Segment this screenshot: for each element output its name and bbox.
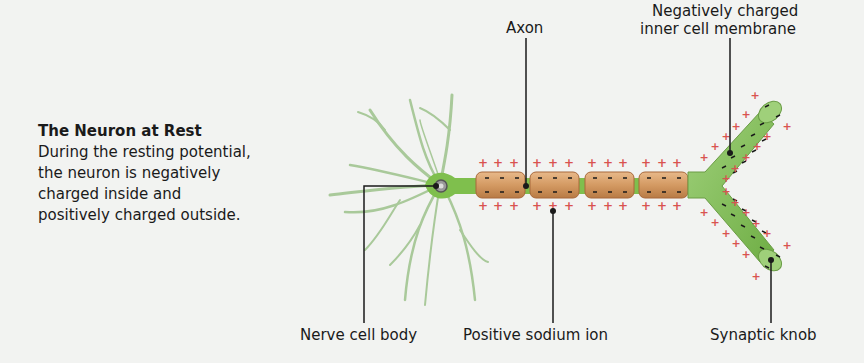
svg-text:+: +	[710, 216, 719, 229]
svg-text:+: +	[548, 156, 558, 170]
svg-text:+: +	[752, 140, 761, 153]
svg-text:+: +	[478, 199, 488, 213]
svg-text:+: +	[618, 199, 628, 213]
svg-text:+: +	[603, 199, 613, 213]
svg-text:+: +	[509, 156, 519, 170]
svg-text:+: +	[672, 156, 682, 170]
svg-text:+: +	[721, 130, 730, 143]
svg-text:+: +	[731, 237, 740, 250]
svg-text:+: +	[750, 89, 759, 102]
svg-text:+: +	[564, 199, 574, 213]
svg-text:+: +	[762, 227, 771, 240]
svg-text:+: +	[532, 199, 542, 213]
label-axon: Axon	[506, 19, 543, 38]
svg-text:+: +	[699, 151, 708, 164]
svg-text:+: +	[672, 199, 682, 213]
label-positive-sodium-ion: Positive sodium ion	[463, 326, 608, 345]
svg-text:+: +	[587, 156, 597, 170]
svg-text:+: +	[710, 140, 719, 153]
svg-text:+: +	[741, 151, 750, 164]
neuron-diagram: +++ +++ +++ +++ +++ +++ +++ +++ ++++++ +…	[0, 0, 864, 363]
svg-text:+: +	[657, 199, 667, 213]
svg-text:+: +	[509, 199, 519, 213]
svg-text:+: +	[782, 120, 791, 133]
svg-text:+: +	[587, 199, 597, 213]
svg-text:+: +	[782, 239, 791, 252]
dendrites	[330, 95, 488, 305]
svg-text:+: +	[741, 206, 750, 219]
svg-text:+: +	[641, 156, 651, 170]
svg-text:+: +	[493, 199, 503, 213]
svg-text:+: +	[751, 270, 760, 283]
svg-text:+: +	[641, 199, 651, 213]
svg-text:+: +	[564, 156, 574, 170]
svg-text:+: +	[730, 162, 739, 175]
svg-text:+: +	[478, 156, 488, 170]
label-membrane-line2: inner cell membrane	[640, 20, 796, 39]
svg-text:+: +	[721, 172, 730, 185]
svg-text:+: +	[721, 227, 730, 240]
svg-text:+: +	[532, 156, 542, 170]
svg-text:+: +	[618, 156, 628, 170]
svg-text:+: +	[730, 196, 739, 209]
svg-text:+: +	[741, 108, 750, 121]
svg-text:+: +	[751, 217, 760, 230]
svg-text:+: +	[657, 156, 667, 170]
svg-text:+: +	[741, 248, 750, 261]
svg-text:+: +	[721, 185, 730, 198]
label-nerve-cell-body: Nerve cell body	[300, 326, 417, 345]
label-membrane-line1: Negatively charged	[652, 2, 798, 21]
label-synaptic-knob: Synaptic knob	[710, 326, 817, 345]
svg-text:+: +	[699, 206, 708, 219]
svg-text:+: +	[731, 120, 740, 133]
svg-text:+: +	[493, 156, 503, 170]
svg-text:+: +	[603, 156, 613, 170]
svg-text:+: +	[762, 130, 771, 143]
